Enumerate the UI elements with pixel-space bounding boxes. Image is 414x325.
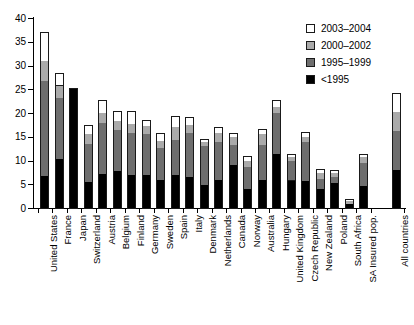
category-label: France <box>63 215 73 245</box>
category-label: Belgium <box>121 215 131 249</box>
x-tick <box>298 209 299 213</box>
x-tick <box>52 209 53 213</box>
bar-segment <box>301 141 310 181</box>
bar-segment <box>40 80 49 176</box>
bar-united-kingdom <box>287 18 296 208</box>
bar-france <box>55 18 64 208</box>
bar-segment <box>330 170 339 173</box>
bar-belgium <box>113 18 122 208</box>
bar-segment <box>40 32 49 61</box>
y-tick-label: 10 <box>15 156 26 166</box>
x-tick <box>327 209 328 213</box>
bar-segment <box>156 179 165 209</box>
category-label: New Zealand <box>324 215 334 271</box>
bar-segment <box>214 127 223 133</box>
category-label: Norway <box>252 215 262 247</box>
bar-segment <box>258 179 267 209</box>
legend-swatch-icon <box>306 75 315 84</box>
bar-segment <box>330 182 339 209</box>
category-label: Spain <box>179 215 189 239</box>
category-label: Finland <box>136 215 146 246</box>
bar-segment <box>392 93 401 112</box>
bar-segment <box>55 85 64 99</box>
category-label: Canada <box>237 215 247 248</box>
bar-segment <box>113 111 122 121</box>
bar-segment <box>200 139 209 142</box>
bar-segment <box>392 130 401 170</box>
bar-segment <box>229 133 238 137</box>
category-label: All countries <box>400 215 410 267</box>
bar-segment <box>200 145 209 185</box>
category-label: Japan <box>78 215 88 241</box>
bar-segment <box>171 174 180 209</box>
bar-australia <box>258 18 267 208</box>
x-tick <box>183 209 184 213</box>
x-tick <box>110 209 111 213</box>
bar-segment <box>142 133 151 175</box>
category-label: Australia <box>266 215 276 252</box>
category-label: Austria <box>107 215 117 245</box>
legend-item: 1995–1999 <box>306 54 371 71</box>
legend-label: 2000–2002 <box>321 41 371 51</box>
x-tick <box>241 209 242 213</box>
category-label: Hungary <box>281 215 291 251</box>
bar-segment <box>113 170 122 209</box>
bar-germany <box>142 18 151 208</box>
legend-swatch-icon <box>306 58 315 67</box>
x-tick <box>371 209 372 213</box>
x-tick <box>342 209 343 213</box>
bar-united-states <box>40 18 49 208</box>
x-tick <box>139 209 140 213</box>
category-label: South Africa <box>353 215 363 266</box>
legend-label: 1995–1999 <box>321 58 371 68</box>
bar-segment <box>84 125 93 135</box>
bar-segment <box>301 132 310 137</box>
bar-segment <box>185 124 194 133</box>
bar-segment <box>113 129 122 170</box>
bar-norway <box>243 18 252 208</box>
chart-legend: 2003–20042000–20021995–1999<1995 <box>306 20 371 88</box>
bar-segment <box>392 169 401 209</box>
legend-item: 2000–2002 <box>306 37 371 54</box>
x-tick <box>197 209 198 213</box>
bar-segment <box>40 60 49 80</box>
bar-segment <box>287 180 296 210</box>
bar-segment <box>229 136 238 145</box>
bar-segment <box>200 184 209 209</box>
bar-segment <box>392 111 401 131</box>
bar-segment <box>359 156 368 163</box>
x-tick <box>67 209 68 213</box>
x-tick <box>255 209 256 213</box>
x-tick <box>404 209 405 213</box>
x-tick <box>212 209 213 213</box>
bar-segment <box>243 188 252 209</box>
x-tick <box>284 209 285 213</box>
bar-denmark <box>200 18 209 208</box>
bar-segment <box>142 120 151 127</box>
bar-segment <box>229 164 238 209</box>
category-label: United States <box>49 215 59 272</box>
bar-segment <box>98 100 107 113</box>
bar-segment <box>243 160 252 167</box>
bar-segment <box>359 154 368 157</box>
bar-segment <box>258 144 267 180</box>
bar-segment <box>127 111 136 124</box>
bar-segment <box>287 160 296 181</box>
bar-segment <box>214 141 223 180</box>
bar-segment <box>272 100 281 107</box>
category-label: Denmark <box>208 215 218 254</box>
bar-segment <box>156 133 165 140</box>
bar-segment <box>359 162 368 185</box>
x-tick <box>313 209 314 213</box>
bar-segment <box>69 88 78 209</box>
bar-segment <box>156 140 165 148</box>
bar-segment <box>185 117 194 126</box>
x-tick <box>226 209 227 213</box>
bar-segment <box>258 129 267 134</box>
x-tick <box>154 209 155 213</box>
bar-spain <box>171 18 180 208</box>
bar-segment <box>55 158 64 209</box>
legend-item: <1995 <box>306 71 371 88</box>
bar-segment <box>84 143 93 182</box>
bar-segment <box>98 173 107 209</box>
